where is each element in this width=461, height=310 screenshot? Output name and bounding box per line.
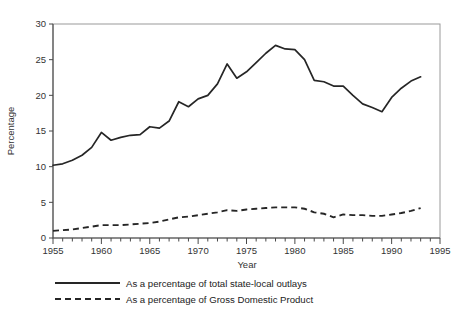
x-tick-label: 1995 [429,245,450,256]
x-tick-label: 1960 [91,245,112,256]
series-line-1 [53,45,421,165]
y-axis-ticks: 051015202530 [35,18,53,243]
legend-label-1: As a percentage of total state-local out… [126,278,307,289]
y-tick-label: 15 [35,125,46,136]
x-axis-ticks: 195519601965197019751980198519901995 [42,238,450,256]
legend-label-2: As a percentage of Gross Domestic Produc… [126,294,313,305]
legend: As a percentage of total state-local out… [55,278,313,305]
series-group [53,45,421,230]
x-tick-label: 1980 [284,245,305,256]
x-axis-label: Year [237,259,256,270]
x-tick-label: 1955 [42,245,63,256]
y-tick-label: 20 [35,90,46,101]
y-tick-label: 25 [35,54,46,65]
x-tick-label: 1975 [236,245,257,256]
axes-group [53,24,440,238]
chart-container: 051015202530 195519601965197019751980198… [0,0,461,310]
y-tick-label: 10 [35,161,46,172]
axis-lines [53,24,440,238]
x-tick-label: 1990 [381,245,402,256]
x-tick-label: 1970 [188,245,209,256]
y-tick-label: 0 [41,232,46,243]
y-axis-label: Percentage [5,107,16,156]
x-tick-label: 1985 [333,245,354,256]
plot-frame [53,24,440,238]
line-chart-figure: 051015202530 195519601965197019751980198… [0,0,461,310]
series-line-2 [53,207,421,231]
y-tick-label: 30 [35,18,46,29]
x-tick-label: 1965 [139,245,160,256]
y-tick-label: 5 [41,197,46,208]
